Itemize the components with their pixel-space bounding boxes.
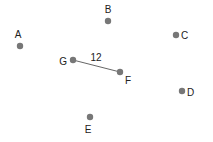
node-f <box>117 69 123 75</box>
node-label-b: B <box>105 4 112 15</box>
node-label-a: A <box>15 29 22 40</box>
node-label-d: D <box>187 87 194 98</box>
node-label-c: C <box>181 30 188 41</box>
node-a <box>17 43 23 49</box>
node-d <box>179 88 185 94</box>
node-b <box>105 18 111 24</box>
node-label-f: F <box>125 75 131 86</box>
node-label-g: G <box>59 56 67 67</box>
graph-canvas: 12ABCDEFG <box>0 0 213 142</box>
node-label-e: E <box>85 124 92 135</box>
graph-diagram: 12ABCDEFG <box>0 0 213 142</box>
node-g <box>70 57 76 63</box>
node-e <box>87 114 93 120</box>
node-c <box>173 32 179 38</box>
edge-weight-label: 12 <box>90 52 102 63</box>
